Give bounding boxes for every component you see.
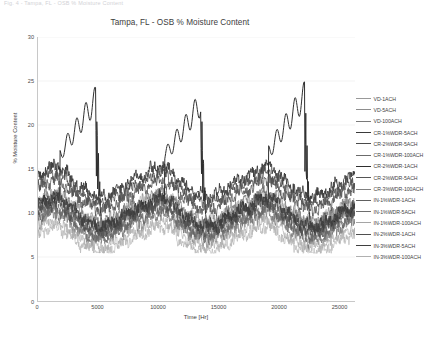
y-axis-title: % Moisture Content xyxy=(12,88,18,188)
legend-item[interactable]: VD-1ACH xyxy=(356,93,445,104)
legend-swatch-icon xyxy=(356,234,371,235)
legend-swatch-icon xyxy=(356,109,371,110)
legend-item[interactable]: VD-100ACH xyxy=(356,116,445,127)
legend-item[interactable]: CR-1%WDR-100ACH xyxy=(356,149,445,160)
legend-label: IN-1%WDR-5ACH xyxy=(374,209,416,215)
y-tick-label: 15 xyxy=(4,166,34,172)
legend-swatch-icon xyxy=(356,121,371,122)
legend-swatch-icon xyxy=(356,166,371,167)
x-tick-label: 0 xyxy=(35,304,38,310)
y-tick-label: 10 xyxy=(4,210,34,216)
legend-label: CR-2%WDR-1ACH xyxy=(374,163,418,169)
legend-swatch-icon xyxy=(356,143,371,144)
x-tick-label: 20000 xyxy=(271,304,287,310)
legend-item[interactable]: IN-1%WDR-100ACH xyxy=(356,217,445,228)
legend-swatch-icon xyxy=(356,132,371,133)
plot-area xyxy=(37,37,355,302)
legend-label: CR-2%WDR-5ACH xyxy=(374,141,418,147)
legend-label: VD-5ACH xyxy=(374,107,396,113)
legend-swatch-icon xyxy=(356,222,371,223)
y-tick-label: 25 xyxy=(4,78,34,84)
legend-swatch-icon xyxy=(356,211,371,212)
legend-item[interactable]: CR-3%WDR-100ACH xyxy=(356,183,445,194)
y-tick-label: 20 xyxy=(4,122,34,128)
legend-item[interactable]: CR-2%WDR-1ACH xyxy=(356,161,445,172)
x-tick-label: 25000 xyxy=(332,304,348,310)
legend-item[interactable]: IN-2%WDR-1ACH xyxy=(356,229,445,240)
legend-label: CR-1%WDR-5ACH xyxy=(374,130,418,136)
x-tick-label: 15000 xyxy=(211,304,227,310)
legend-swatch-icon xyxy=(356,98,371,99)
legend-label: CR-3%WDR-100ACH xyxy=(374,186,424,192)
legend-swatch-icon xyxy=(356,189,371,190)
legend-item[interactable]: IN-3%WDR-5ACH xyxy=(356,240,445,251)
legend-label: CR-2%WDR-5ACH xyxy=(374,175,418,181)
figure-caption: Fig. 4 - Tampa, FL - OSB % Moisture Cont… xyxy=(0,0,445,7)
legend-swatch-icon xyxy=(356,256,371,257)
legend-label: VD-1ACH xyxy=(374,96,396,102)
legend-label: IN-3%WDR-5ACH xyxy=(374,243,416,249)
y-tick-label: 30 xyxy=(4,34,34,40)
legend-label: VD-100ACH xyxy=(374,118,402,124)
chart-title: Tampa, FL - OSB % Moisture Content xyxy=(0,18,360,27)
legend-item[interactable]: CR-2%WDR-5ACH xyxy=(356,138,445,149)
legend-item[interactable]: CR-2%WDR-5ACH xyxy=(356,172,445,183)
plot-lines xyxy=(38,37,355,301)
chart-figure: Fig. 4 - Tampa, FL - OSB % Moisture Cont… xyxy=(0,0,445,341)
legend-item[interactable]: IN-1%WDR-5ACH xyxy=(356,206,445,217)
chart-legend: VD-1ACHVD-5ACHVD-100ACHCR-1%WDR-5ACHCR-2… xyxy=(356,93,445,262)
legend-item[interactable]: IN-1%WDR-1ACH xyxy=(356,195,445,206)
legend-item[interactable]: CR-1%WDR-5ACH xyxy=(356,127,445,138)
legend-label: IN-2%WDR-1ACH xyxy=(374,231,416,237)
y-tick-label: 5 xyxy=(4,254,34,260)
legend-label: CR-1%WDR-100ACH xyxy=(374,152,424,158)
legend-label: IN-1%WDR-100ACH xyxy=(374,220,421,226)
legend-item[interactable]: VD-5ACH xyxy=(356,104,445,115)
x-axis-title: Time [Hr] xyxy=(37,314,355,320)
legend-swatch-icon xyxy=(356,200,371,201)
y-tick-label: 0 xyxy=(4,299,34,305)
legend-swatch-icon xyxy=(356,177,371,178)
x-tick-label: 10000 xyxy=(150,304,166,310)
legend-swatch-icon xyxy=(356,155,371,156)
legend-label: IN-3%WDR-100ACH xyxy=(374,254,421,260)
x-tick-label: 5000 xyxy=(91,304,103,310)
legend-item[interactable]: IN-3%WDR-100ACH xyxy=(356,251,445,262)
legend-label: IN-1%WDR-1ACH xyxy=(374,197,416,203)
legend-swatch-icon xyxy=(356,245,371,246)
